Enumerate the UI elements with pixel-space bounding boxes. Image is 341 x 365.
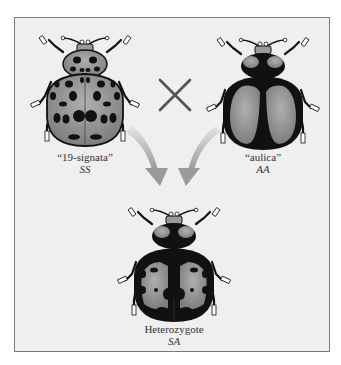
parent-1-name: “19-signata” [57,151,113,163]
beetle-aulica [207,38,320,150]
parent-2-name: “aulica” [245,151,281,163]
cross-symbol-icon [160,80,190,110]
offspring-name: Heterozygote [144,323,203,335]
offspring-genotype: SA [144,335,203,347]
arrow-right-icon [178,126,220,186]
cross-diagram [0,0,341,365]
offspring-label: Heterozygote SA [144,323,203,347]
parent-2-label: “aulica” AA [245,151,281,175]
beetle-heterozygote [118,208,231,322]
parent-1-label: “19-signata” SS [57,151,113,175]
beetle-19-signata [31,36,140,146]
arrow-left-icon [126,126,168,186]
parent-2-genotype: AA [245,163,281,175]
parent-1-genotype: SS [57,163,113,175]
